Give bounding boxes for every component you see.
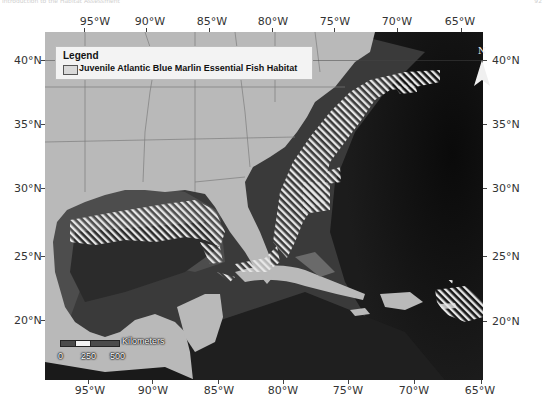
legend-item-label: Juvenile Atlantic Blue Marlin Essential … (79, 63, 297, 73)
lat-label-right-20n: 20°N (492, 315, 520, 328)
lon-label-bottom-90w: 90°W (138, 384, 168, 397)
lon-label-bottom-70w: 70°W (399, 384, 429, 397)
lon-label-bottom-80w: 80°W (268, 384, 298, 397)
page-header-title: Introduction to the Habitat Assessment (2, 0, 120, 4)
tick-mark (483, 256, 487, 257)
lon-label-top-70w: 70°W (382, 15, 412, 28)
habitat-swatch-icon (63, 65, 78, 75)
lat-label-left-40n: 40°N (14, 54, 42, 67)
lat-label-left-35n: 35°N (14, 118, 42, 131)
lat-label-right-40n: 40°N (492, 54, 520, 67)
lat-label-left-30n: 30°N (14, 182, 42, 195)
tick-mark (483, 321, 487, 322)
habitat-blake-plateau (303, 182, 330, 214)
tick-mark (152, 380, 153, 384)
map-svg (45, 32, 483, 380)
scale-segment (60, 340, 76, 347)
north-arrow: N (470, 48, 494, 88)
scale-segment (90, 340, 120, 347)
lon-label-bottom-65w: 65°W (465, 384, 495, 397)
tick-mark (483, 188, 487, 189)
tick-mark (88, 380, 89, 384)
lon-label-top-90w: 90°W (135, 15, 165, 28)
lon-label-bottom-85w: 85°W (204, 384, 234, 397)
tick-mark (218, 380, 219, 384)
lat-label-right-25n: 25°N (492, 250, 520, 263)
lat-label-right-30n: 30°N (492, 182, 520, 195)
scale-segment (75, 340, 91, 347)
tick-mark (283, 380, 284, 384)
lon-label-bottom-75w: 75°W (333, 384, 363, 397)
north-label: N (478, 46, 486, 56)
legend-box: Legend Juvenile Atlantic Blue Marlin Ess… (55, 46, 313, 80)
lon-label-top-95w: 95°W (80, 15, 110, 28)
lon-label-bottom-95w: 95°W (75, 384, 105, 397)
page-number: 92 (534, 0, 542, 4)
scale-tick-500: 500 (110, 351, 125, 361)
lon-label-top-80w: 80°W (258, 15, 288, 28)
scale-unit-label: Kilometers (122, 336, 165, 346)
tick-mark (481, 380, 482, 384)
page-header: Introduction to the Habitat Assessment 9… (0, 0, 546, 6)
legend-title: Legend (63, 50, 99, 61)
map-canvas[interactable] (45, 32, 483, 380)
lat-label-left-25n: 25°N (14, 250, 42, 263)
lon-label-top-85w: 85°W (197, 15, 227, 28)
tick-mark (414, 380, 415, 384)
tick-mark (348, 380, 349, 384)
scale-tick-250: 250 (81, 351, 96, 361)
scale-tick-0: 0 (58, 351, 63, 361)
lat-label-right-35n: 35°N (492, 118, 520, 131)
lon-label-top-75w: 75°W (320, 15, 350, 28)
lon-label-top-65w: 65°W (445, 15, 475, 28)
lat-label-left-20n: 20°N (14, 314, 42, 327)
tick-mark (483, 124, 487, 125)
